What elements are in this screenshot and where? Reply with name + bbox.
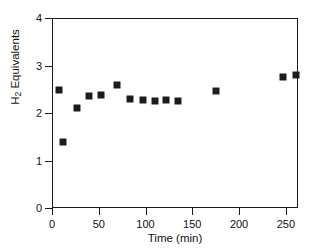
x-axis-tick (286, 208, 287, 215)
data-point (97, 91, 104, 98)
data-point (126, 96, 133, 103)
data-point (114, 82, 121, 89)
data-point (139, 96, 146, 103)
y-axis-title: H2 Equivalents (9, 7, 23, 127)
y-axis-tick (45, 18, 52, 19)
data-point-layer (52, 18, 298, 208)
data-point (212, 88, 219, 95)
data-point (151, 98, 158, 105)
x-axis-tick-label: 50 (79, 218, 119, 230)
x-axis-tick-label: 150 (172, 218, 212, 230)
y-axis-tick-label: 1 (12, 155, 42, 166)
y-axis-tick (45, 161, 52, 162)
y-axis-tick (45, 208, 52, 209)
x-axis-tick-label: 0 (32, 218, 72, 230)
figure-scatter-h2-equivalents: 01234 050100150200250 Time (min) H2 Equi… (0, 0, 315, 251)
data-point (60, 138, 67, 145)
x-axis-tick (192, 208, 193, 215)
data-point (55, 87, 62, 94)
data-point (163, 96, 170, 103)
x-axis-tick-label: 200 (219, 218, 259, 230)
y-axis-title-post: Equivalents (9, 29, 21, 92)
data-point (280, 74, 287, 81)
data-point (175, 98, 182, 105)
x-axis-tick-label: 100 (126, 218, 166, 230)
y-axis-tick (45, 66, 52, 67)
y-axis-tick-label: 0 (12, 203, 42, 214)
y-axis-tick (45, 113, 52, 114)
x-axis-title: Time (min) (52, 232, 298, 245)
data-point (74, 105, 81, 112)
x-axis-tick (99, 208, 100, 215)
data-point (293, 72, 300, 79)
x-axis-tick (52, 208, 53, 215)
x-axis-tick (239, 208, 240, 215)
data-point (86, 92, 93, 99)
y-axis-title-pre: H (9, 97, 21, 105)
x-axis-tick-label: 250 (266, 218, 306, 230)
y-axis-title-subscript: 2 (13, 92, 23, 97)
x-axis-tick (146, 208, 147, 215)
